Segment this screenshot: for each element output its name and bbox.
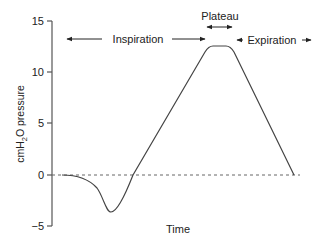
inspiration-annotation: Inspiration [67,33,205,45]
y-tick-10: 10 [32,66,44,78]
plateau-label: Plateau [201,10,238,22]
expiration-label: Expiration [248,34,297,46]
y-axis: 15 10 5 0 −5 [31,15,52,232]
pressure-curve [62,46,294,212]
plateau-annotation: Plateau [201,10,238,27]
y-axis-label: cmH2O pressure [14,85,29,163]
expiration-annotation: Expiration [237,34,311,46]
y-tick-0: 0 [38,169,44,181]
inspiration-label: Inspiration [113,33,164,45]
y-tick-minus5: −5 [31,220,44,232]
y-tick-5: 5 [38,117,44,129]
pressure-time-chart: 15 10 5 0 −5 cmH2O pressure Inspiration … [0,0,315,247]
x-axis-label: Time [166,223,190,235]
y-tick-15: 15 [32,15,44,27]
